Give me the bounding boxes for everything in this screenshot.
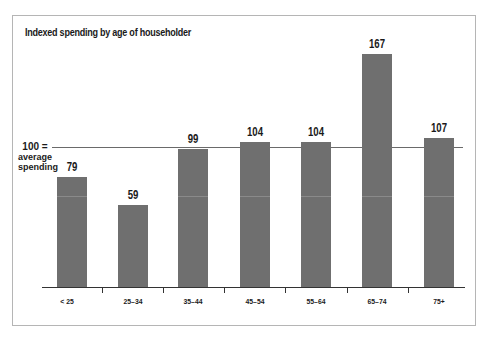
value-label: 167 [357, 37, 397, 51]
x-label: 75+ [418, 297, 461, 306]
x-label: 45–54 [234, 297, 277, 306]
bar-55-64 [301, 142, 331, 287]
bar-75-plus [424, 138, 454, 287]
value-label: 79 [52, 160, 92, 174]
bar-under-25 [57, 177, 87, 287]
bar-35-44 [178, 149, 208, 287]
x-label: 25–34 [112, 297, 155, 306]
x-tick [347, 287, 348, 293]
reference-label: 100 = average spending [18, 142, 52, 172]
bar-65-74 [362, 54, 392, 287]
x-tick [408, 287, 409, 293]
reference-label-value: 100 = [18, 142, 52, 152]
value-label: 59 [113, 188, 153, 202]
value-label: 99 [173, 132, 213, 146]
x-tick [285, 287, 286, 293]
x-label: 65–74 [356, 297, 399, 306]
reference-label-text1: average [18, 152, 52, 162]
chart-title: Indexed spending by age of householder [25, 26, 191, 38]
x-label: 55–64 [295, 297, 338, 306]
x-label: 35–44 [172, 297, 215, 306]
value-label: 104 [296, 125, 336, 139]
x-tick [163, 287, 164, 293]
reference-label-text2: spending [18, 162, 52, 172]
bar-25-34 [118, 205, 148, 287]
x-tick [102, 287, 103, 293]
x-label: < 25 [46, 297, 89, 306]
value-label: 107 [419, 121, 459, 135]
bar-45-54 [240, 142, 270, 287]
value-label: 104 [235, 125, 275, 139]
x-tick [224, 287, 225, 293]
x-axis [42, 287, 465, 288]
